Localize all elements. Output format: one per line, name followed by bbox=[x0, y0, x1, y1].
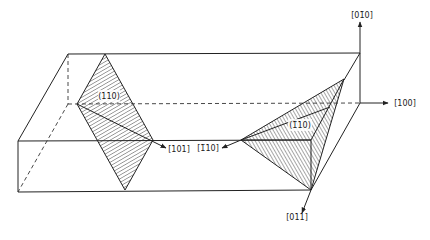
plane-110-label: (110) bbox=[98, 92, 120, 101]
crystal-diagram: (110) (1̄10) [01̄0] [100] [101] [1̄10] [… bbox=[0, 0, 430, 240]
label-1bar10: [1̄10] bbox=[197, 144, 219, 153]
plane-110: (110) bbox=[77, 54, 166, 190]
label-101: [101] bbox=[168, 145, 190, 154]
label-100: [100] bbox=[394, 99, 416, 108]
label-0bar10: [01̄0] bbox=[351, 11, 373, 20]
plane-1bar10: (1̄10) bbox=[241, 79, 344, 190]
arrow-011 bbox=[302, 190, 311, 213]
arrow-1bar10 bbox=[222, 140, 241, 148]
plane-1bar10-label: (1̄10) bbox=[289, 121, 311, 130]
label-011: [011] bbox=[286, 213, 308, 222]
